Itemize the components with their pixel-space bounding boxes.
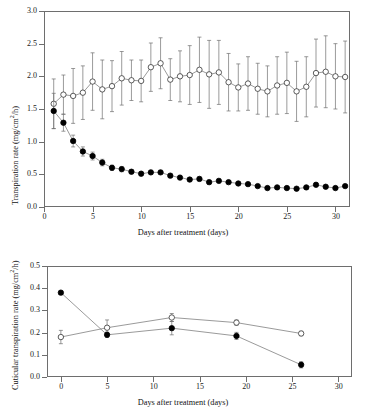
data-point-closed — [177, 175, 182, 180]
data-point-closed — [342, 183, 347, 188]
data-point-closed — [206, 179, 211, 184]
data-point-open — [80, 90, 85, 95]
top-panel: Transpiration rate (mg/cm2/h) Days after… — [0, 0, 366, 240]
data-point-open — [109, 83, 114, 88]
data-point-closed — [216, 178, 221, 183]
data-point-open — [294, 89, 299, 94]
figure-container: Transpiration rate (mg/cm2/h) Days after… — [0, 0, 366, 410]
data-point-closed — [129, 169, 134, 174]
data-point-closed — [70, 138, 75, 143]
data-point-closed — [80, 149, 85, 154]
data-point-open — [61, 92, 66, 97]
data-point-closed — [245, 181, 250, 186]
data-point-open — [206, 72, 211, 77]
data-point-open — [138, 78, 143, 83]
data-point-open — [90, 79, 95, 84]
data-point-closed — [58, 290, 63, 295]
data-point-open — [342, 74, 347, 79]
data-point-closed — [265, 185, 270, 190]
data-point-open — [104, 325, 109, 330]
data-point-closed — [313, 182, 318, 187]
data-point-open — [284, 80, 289, 85]
series-closed-circle-series — [58, 290, 304, 368]
data-point-open — [226, 80, 231, 85]
data-point-open — [197, 67, 202, 72]
bottom-panel-data-layer — [0, 240, 366, 410]
data-point-closed — [104, 332, 109, 337]
data-point-closed — [169, 325, 174, 330]
data-point-closed — [274, 185, 279, 190]
data-point-closed — [51, 108, 56, 113]
data-point-closed — [298, 362, 303, 367]
top-panel-data-layer — [0, 0, 366, 240]
data-point-closed — [61, 120, 66, 125]
data-point-closed — [168, 173, 173, 178]
data-point-open — [119, 76, 124, 81]
series-open-circle-series — [51, 36, 348, 129]
data-point-closed — [197, 176, 202, 181]
data-point-open — [148, 64, 153, 69]
data-point-closed — [234, 333, 239, 338]
data-point-open — [313, 70, 318, 75]
series-open-circle-series — [58, 314, 304, 344]
data-point-open — [177, 74, 182, 79]
data-point-open — [129, 78, 134, 83]
data-point-open — [168, 77, 173, 82]
data-point-open — [304, 84, 309, 89]
data-point-open — [100, 87, 105, 92]
data-point-open — [234, 320, 239, 325]
data-point-closed — [90, 153, 95, 158]
data-point-open — [245, 81, 250, 86]
data-point-open — [216, 70, 221, 75]
data-point-closed — [323, 184, 328, 189]
data-point-open — [236, 85, 241, 90]
series-closed-circle-series — [51, 93, 348, 191]
data-point-closed — [255, 183, 260, 188]
data-point-open — [274, 83, 279, 88]
data-point-open — [265, 89, 270, 94]
data-point-closed — [187, 177, 192, 182]
data-point-open — [255, 86, 260, 91]
data-point-open — [70, 93, 75, 98]
data-point-open — [58, 334, 63, 339]
data-point-closed — [119, 166, 124, 171]
data-point-open — [187, 72, 192, 77]
data-point-closed — [284, 185, 289, 190]
data-point-open — [323, 69, 328, 74]
data-point-closed — [158, 170, 163, 175]
data-point-closed — [294, 186, 299, 191]
data-point-closed — [148, 170, 153, 175]
data-point-open — [158, 61, 163, 66]
data-point-closed — [100, 160, 105, 165]
data-point-closed — [236, 181, 241, 186]
data-point-closed — [333, 185, 338, 190]
data-point-closed — [109, 165, 114, 170]
data-point-open — [333, 74, 338, 79]
bottom-panel: Cuticular transpiration rate (mg/cm2/h) … — [0, 240, 366, 410]
data-point-closed — [304, 185, 309, 190]
data-point-open — [298, 331, 303, 336]
data-point-open — [169, 315, 174, 320]
data-point-closed — [226, 179, 231, 184]
data-point-closed — [138, 171, 143, 176]
